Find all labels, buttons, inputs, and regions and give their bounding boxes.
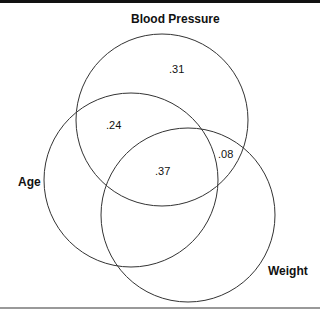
label-weight: Weight (268, 264, 308, 278)
label-blood-pressure: Blood Pressure (131, 12, 220, 26)
bottom-divider (0, 307, 320, 309)
circle-weight (101, 128, 275, 302)
circle-blood-pressure (76, 34, 248, 206)
value-all-three: .37 (155, 165, 170, 177)
circle-age (44, 93, 218, 267)
value-bp-weight: .08 (218, 148, 233, 160)
value-bp-age: .24 (106, 119, 121, 131)
value-bp-only: .31 (169, 63, 184, 75)
label-age: Age (18, 175, 41, 189)
